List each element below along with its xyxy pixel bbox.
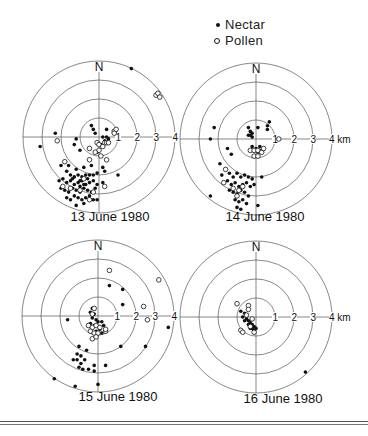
nectar-point: [245, 181, 249, 185]
legend-label-pollen: Pollen: [225, 33, 263, 49]
pollen-point: [235, 301, 240, 306]
nectar-point: [243, 173, 247, 177]
nectar-point: [92, 179, 96, 183]
nectar-point: [65, 196, 69, 200]
nectar-point: [121, 303, 125, 307]
distance-tick-label: 3: [311, 134, 317, 145]
nectar-point: [90, 124, 94, 128]
pollen-point: [158, 95, 163, 100]
pollen-point: [221, 180, 226, 185]
nectar-point: [71, 177, 75, 181]
nectar-point: [256, 126, 260, 130]
distance-tick-label: 4: [173, 132, 179, 143]
nectar-point: [116, 173, 120, 177]
nectar-point: [59, 164, 63, 168]
distance-tick-label: 2: [292, 312, 298, 323]
nectar-point: [76, 196, 80, 200]
distance-tick-label: 4 km: [329, 312, 351, 323]
pollen-point: [93, 150, 98, 155]
nectar-point: [220, 173, 224, 177]
nectar-point: [237, 200, 241, 204]
nectar-point: [78, 149, 82, 153]
nectar-point: [249, 185, 253, 189]
legend-item-nectar: Nectar: [214, 17, 265, 33]
pollen-point: [235, 194, 240, 199]
nectar-point: [209, 137, 213, 141]
nectar-point: [95, 171, 99, 175]
nectar-point: [256, 204, 260, 208]
nectar-point: [119, 345, 123, 349]
nectar-point: [75, 352, 79, 356]
pollen-point: [92, 306, 97, 311]
distance-tick-label: 3: [153, 311, 159, 322]
pollen-point: [237, 188, 242, 193]
nectar-point: [82, 202, 86, 206]
nectar-point: [250, 132, 254, 136]
pollen-point: [244, 313, 249, 318]
nectar-point: [266, 124, 270, 128]
polar-plot-3: N123415 June 1980: [22, 239, 178, 404]
nectar-point: [247, 133, 251, 137]
nectar-point: [57, 179, 61, 183]
plot-date-title: 13 June 1980: [71, 209, 150, 224]
pollen-point: [240, 184, 245, 189]
north-label: N: [252, 240, 261, 254]
nectar-point: [247, 194, 251, 198]
nectar-point: [92, 128, 96, 132]
distance-tick-label: 2: [292, 134, 298, 145]
nectar-point: [104, 364, 108, 368]
nectar-point: [92, 369, 96, 373]
nectar-point: [76, 173, 80, 177]
pollen-point: [103, 327, 108, 332]
nectar-point: [80, 198, 84, 202]
nectar-point: [38, 145, 42, 149]
nectar-point: [266, 128, 270, 132]
nectar-point: [235, 171, 239, 175]
bottom-rule: [0, 421, 368, 422]
nectar-point: [82, 166, 86, 170]
pollen-point: [141, 304, 146, 309]
distance-tick-label: 4: [172, 311, 178, 322]
nectar-point: [65, 181, 69, 185]
nectar-point: [304, 370, 308, 374]
pollen-point: [90, 312, 95, 317]
pollen-point: [106, 140, 111, 145]
nectar-point: [93, 131, 97, 135]
nectar-point: [250, 177, 254, 181]
nectar-point: [67, 164, 71, 168]
nectar-point: [73, 385, 77, 389]
nectar-point: [66, 318, 70, 322]
pollen-point: [145, 318, 150, 323]
nectar-point: [74, 137, 78, 141]
pollen-point: [55, 139, 60, 144]
filled-dot-icon: [216, 23, 220, 27]
nectar-point: [121, 288, 125, 292]
nectar-point: [74, 168, 78, 172]
nectar-point: [92, 173, 96, 177]
nectar-point: [101, 166, 105, 170]
nectar-point: [75, 358, 79, 362]
nectar-point: [73, 183, 77, 187]
pollen-point: [82, 177, 87, 182]
nectar-point: [247, 175, 251, 179]
pollen-point: [87, 158, 92, 163]
pollen-point: [102, 184, 107, 189]
nectar-point: [212, 126, 216, 130]
polar-plot-2: N1234 km14 June 1980: [180, 62, 351, 224]
nectar-point: [167, 326, 171, 330]
north-label: N: [95, 60, 104, 74]
nectar-point: [90, 164, 94, 168]
nectar-point: [73, 194, 77, 198]
pollen-point: [231, 186, 236, 191]
legend-label-nectar: Nectar: [225, 17, 265, 33]
pollen-point: [240, 330, 245, 335]
pollen-point: [61, 184, 66, 189]
pollen-point: [107, 268, 112, 273]
polar-plot-1: N123413 June 1980: [23, 60, 179, 224]
nectar-point: [108, 284, 112, 288]
distance-tick-label: 3: [311, 312, 317, 323]
nectar-point: [79, 362, 83, 366]
nectar-point: [77, 345, 81, 349]
nectar-point: [88, 181, 92, 185]
nectar-point: [241, 198, 245, 202]
